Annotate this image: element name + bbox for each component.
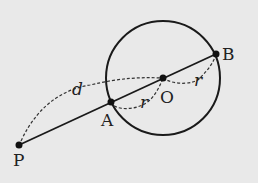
label-o: O (160, 87, 174, 107)
label-d: d (72, 79, 83, 99)
label-p: P (13, 150, 24, 170)
label-r2: r (194, 70, 203, 90)
diagram-canvas: P A O B d r r (0, 0, 258, 183)
label-a: A (100, 110, 114, 130)
label-r1: r (140, 92, 149, 112)
label-b: B (222, 44, 235, 64)
point-o (160, 75, 167, 82)
point-a (108, 99, 115, 106)
point-b (213, 51, 220, 58)
line-pb (19, 54, 216, 145)
point-p (16, 142, 23, 149)
